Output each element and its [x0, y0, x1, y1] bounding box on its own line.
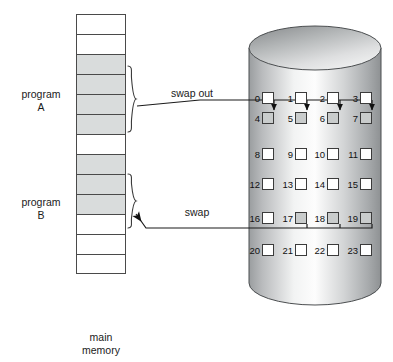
disk-block-number-9: 9 — [277, 149, 293, 160]
disk-block-18 — [327, 212, 339, 224]
disk-block-10 — [327, 148, 339, 160]
disk-block-0 — [262, 92, 274, 104]
main-memory-caption: main memory — [66, 331, 136, 356]
disk-block-14 — [327, 178, 339, 190]
disk-block-19 — [360, 212, 372, 224]
program-a-label-line2: A — [10, 101, 72, 114]
disk-block-number-8: 8 — [244, 149, 260, 160]
disk-block-number-18: 18 — [309, 213, 325, 224]
disk-block-number-10: 10 — [309, 149, 325, 160]
disk-block-16 — [262, 212, 274, 224]
disk-block-number-11: 11 — [342, 149, 358, 160]
disk-block-2 — [327, 92, 339, 104]
brace-program-a — [128, 66, 136, 132]
disk-block-20 — [262, 244, 274, 256]
disk-block-number-20: 20 — [244, 245, 260, 256]
swap-out-label: swap out — [150, 87, 234, 99]
main-memory-caption-line1: main — [66, 331, 136, 344]
disk-block-number-5: 5 — [277, 113, 293, 124]
disk-block-number-12: 12 — [244, 179, 260, 190]
disk-block-number-6: 6 — [309, 113, 325, 124]
disk-block-4 — [262, 112, 274, 124]
swapping-diagram: 01234567891011121314151617181920212223 p… — [0, 0, 393, 362]
disk-block-number-0: 0 — [244, 93, 260, 104]
disk-block-21 — [295, 244, 307, 256]
disk-block-number-4: 4 — [244, 113, 260, 124]
cylinder-top-ellipse — [249, 26, 381, 70]
swap-in-label: swap — [170, 206, 224, 218]
disk-block-8 — [262, 148, 274, 160]
main-memory-caption-line2: memory — [66, 344, 136, 357]
disk-block-number-15: 15 — [342, 179, 358, 190]
disk-block-13 — [295, 178, 307, 190]
disk-block-number-23: 23 — [342, 245, 358, 256]
disk-block-number-16: 16 — [244, 213, 260, 224]
disk-cylinder — [249, 26, 381, 305]
cylinder-body — [249, 48, 381, 305]
disk-block-number-22: 22 — [309, 245, 325, 256]
disk-block-1 — [295, 92, 307, 104]
disk-block-22 — [327, 244, 339, 256]
disk-block-5 — [295, 112, 307, 124]
program-b-label: program B — [10, 196, 72, 221]
disk-block-number-21: 21 — [277, 245, 293, 256]
disk-block-9 — [295, 148, 307, 160]
disk-block-17 — [295, 212, 307, 224]
disk-block-7 — [360, 112, 372, 124]
disk-block-number-2: 2 — [309, 93, 325, 104]
disk-block-number-14: 14 — [309, 179, 325, 190]
brace-program-b — [128, 174, 136, 228]
disk-block-number-17: 17 — [277, 213, 293, 224]
program-b-label-line1: program — [10, 196, 72, 209]
program-a-label: program A — [10, 88, 72, 113]
disk-block-number-1: 1 — [277, 93, 293, 104]
disk-block-number-19: 19 — [342, 213, 358, 224]
disk-block-12 — [262, 178, 274, 190]
disk-block-23 — [360, 244, 372, 256]
disk-block-15 — [360, 178, 372, 190]
disk-block-number-13: 13 — [277, 179, 293, 190]
disk-block-number-3: 3 — [342, 93, 358, 104]
program-b-label-line2: B — [10, 209, 72, 222]
disk-block-3 — [360, 92, 372, 104]
program-a-label-line1: program — [10, 88, 72, 101]
disk-block-6 — [327, 112, 339, 124]
disk-block-11 — [360, 148, 372, 160]
disk-block-number-7: 7 — [342, 113, 358, 124]
